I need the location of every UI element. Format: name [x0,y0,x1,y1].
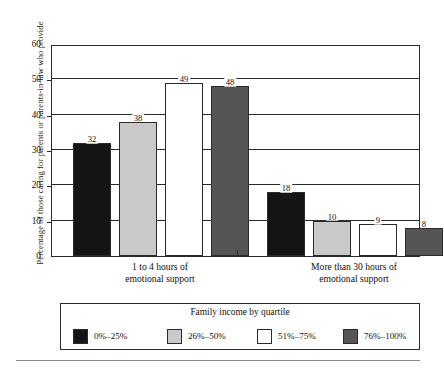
bar-g0-s1 [119,122,157,256]
bottom-divider [16,360,420,361]
bar-g1-s2 [359,224,397,256]
legend-item-1[interactable]: 26%–50% [167,326,226,346]
bar-value-label-g0-s0: 32 [86,135,98,144]
legend-swatch-icon-2 [257,329,272,344]
bar-value-label-g0-s3: 48 [224,78,236,87]
y-tick-10: 10 [32,217,41,226]
legend: Family income by quartile 0%–25%26%–50%5… [60,303,420,350]
y-tick-20: 20 [32,182,41,191]
legend-items: 0%–25%26%–50%51%–75%76%–100% [61,326,419,348]
legend-swatch-icon-3 [343,329,358,344]
legend-item-0[interactable]: 0%–25% [73,326,127,346]
bar-value-label-g1-s2: 9 [374,216,381,225]
y-tickmark-20 [47,186,52,187]
x-category-label-0: 1 to 4 hours ofemotional support [70,261,250,286]
x-category-0-line-0: 1 to 4 hours of [70,261,250,273]
legend-title: Family income by quartile [61,307,419,317]
legend-item-3[interactable]: 76%–100% [343,326,406,346]
bar-g1-s3 [405,228,443,256]
legend-label-0: 0%–25% [94,331,127,341]
legend-label-1: 26%–50% [188,331,226,341]
y-axis-tick-labels: 0102030405060 [26,45,47,257]
y-tick-30: 30 [32,146,41,155]
bar-value-label-g0-s1: 38 [132,113,144,122]
group-separator-tick [237,250,238,256]
bar-value-label-g1-s0: 18 [280,184,292,193]
bar-g0-s2 [165,83,203,256]
plot-area: 32384948181098 [51,45,420,257]
bar-g1-s0 [267,192,305,256]
bar-g1-s1 [313,221,351,256]
x-category-1-line-0: More than 30 hours of [264,261,444,273]
bar-g0-s0 [73,143,111,256]
legend-swatch-icon-1 [167,329,182,344]
y-tick-40: 40 [32,111,41,120]
bar-value-label-g0-s2: 49 [178,75,190,84]
x-category-0-line-1: emotional support [70,273,250,285]
legend-item-2[interactable]: 51%–75% [257,326,316,346]
bar-g0-s3 [211,86,249,256]
y-tickmark-40 [47,116,52,117]
legend-label-3: 76%–100% [364,331,406,341]
legend-label-2: 51%–75% [278,331,316,341]
y-tickmark-50 [47,80,52,81]
bar-value-label-g1-s1: 10 [326,212,338,221]
legend-swatch-icon-0 [73,329,88,344]
x-category-1-line-1: emotional support [264,273,444,285]
y-tickmark-30 [47,151,52,152]
bar-value-label-g1-s3: 8 [420,219,427,228]
y-tick-50: 50 [32,76,41,85]
x-category-label-1: More than 30 hours ofemotional support [264,261,444,286]
y-tickmark-10 [47,222,52,223]
y-tick-60: 60 [32,40,41,49]
y-tick-0: 0 [36,252,41,261]
